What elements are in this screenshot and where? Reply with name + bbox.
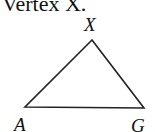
triangle-xag xyxy=(25,40,144,108)
vertex-label-x: X xyxy=(83,14,97,35)
vertex-label-g: G xyxy=(131,115,145,132)
triangle-diagram: X A G xyxy=(0,0,155,132)
vertex-label-a: A xyxy=(12,114,26,132)
